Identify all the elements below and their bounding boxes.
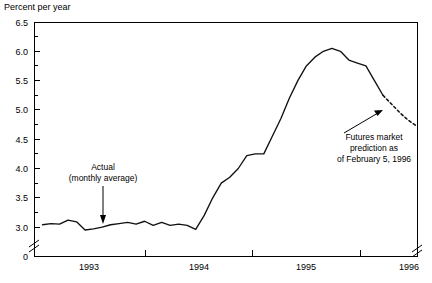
actual-annotation-line1: Actual — [91, 162, 115, 172]
y-tick-label: 0 — [23, 252, 28, 262]
y-tick-label: 3.5 — [15, 193, 28, 203]
y-tick-label: 4.5 — [15, 135, 28, 145]
futures-annotation: Futures market prediction as of February… — [337, 110, 411, 164]
y-tick-label: 6.0 — [15, 47, 28, 57]
actual-annotation: Actual (monthly average) — [69, 162, 138, 224]
x-tick-label: 1996 — [399, 262, 419, 272]
x-axis-tick-labels: 1993 1994 1995 1996 — [79, 262, 419, 272]
futures-annotation-line3: of February 5, 1996 — [337, 154, 411, 164]
y-tick-label: 5.5 — [15, 76, 28, 86]
y-tick-label: 4.0 — [15, 164, 28, 174]
figure-container: Percent per year 6.5 6.0 — [0, 0, 432, 283]
futures-annotation-line1: Futures market — [345, 132, 403, 142]
x-axis-ticks — [34, 250, 360, 256]
y-tick-label: 6.5 — [15, 18, 28, 28]
futures-annotation-arrow — [344, 110, 383, 133]
y-axis-ticks — [34, 22, 40, 256]
futures-annotation-line2: prediction as — [350, 143, 398, 153]
y-axis-tick-labels: 6.5 6.0 5.5 5.0 4.5 4.0 3.5 3.0 0 — [15, 18, 28, 262]
y-tick-label: 3.0 — [15, 223, 28, 233]
series-line-futures-prediction — [383, 95, 417, 126]
actual-annotation-line2: (monthly average) — [69, 173, 138, 183]
actual-annotation-arrow — [100, 186, 106, 224]
interest-rate-line-chart: Percent per year 6.5 6.0 — [0, 0, 432, 283]
x-tick-label: 1994 — [189, 262, 209, 272]
series-line-actual — [43, 48, 383, 230]
x-tick-label: 1993 — [79, 262, 99, 272]
x-tick-label: 1995 — [296, 262, 316, 272]
y-tick-label: 5.0 — [15, 105, 28, 115]
y-axis-title: Percent per year — [4, 2, 71, 12]
